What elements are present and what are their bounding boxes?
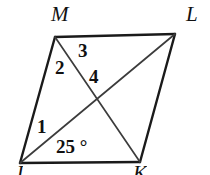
diagonal-jl (20, 34, 175, 163)
angle-label-1: 1 (37, 117, 47, 136)
side-ml (55, 34, 175, 37)
angle-measure-25-degrees: 25 ° (56, 137, 87, 156)
parallelogram-drawing (0, 0, 210, 175)
vertex-label-k: K (133, 163, 147, 175)
angle-label-4: 4 (89, 67, 99, 86)
side-lk (140, 34, 175, 162)
geometry-figure: M L J K 3 2 4 1 25 ° (0, 0, 210, 175)
angle-label-2: 2 (55, 58, 65, 77)
side-kj (20, 162, 140, 163)
angle-label-3: 3 (78, 41, 88, 60)
vertex-label-l: L (186, 4, 198, 25)
vertex-label-m: M (51, 4, 69, 25)
side-jm (20, 37, 55, 163)
vertex-label-j: J (14, 163, 23, 175)
